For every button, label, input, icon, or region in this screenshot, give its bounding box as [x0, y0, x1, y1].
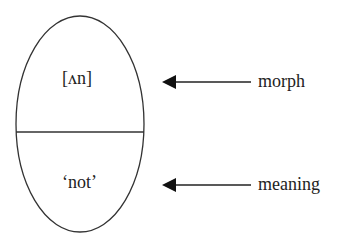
meaning-gloss-text: ‘not’ — [62, 172, 97, 193]
morph-diagram — [0, 0, 352, 235]
arrow-meaning — [162, 178, 251, 192]
arrowhead-icon — [162, 178, 176, 192]
label-meaning: meaning — [258, 174, 320, 195]
morph-ellipse — [16, 16, 144, 232]
label-morph: morph — [258, 71, 305, 92]
arrowhead-icon — [162, 75, 176, 89]
arrow-morph — [162, 75, 251, 89]
morph-form-text: [ʌn] — [62, 68, 92, 89]
